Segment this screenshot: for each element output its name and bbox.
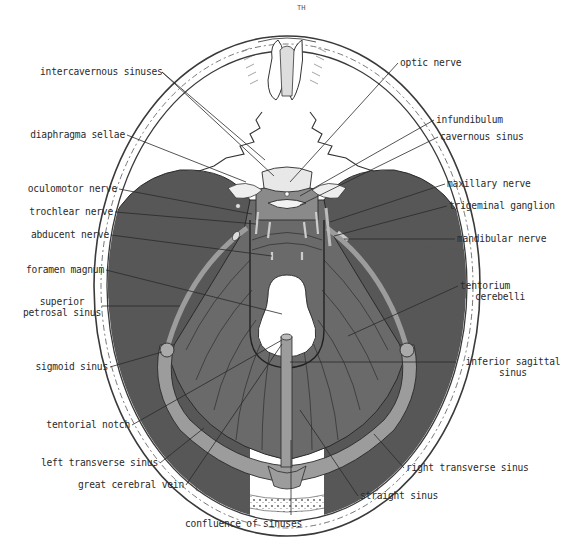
label-infundibulum: infundibulum	[436, 114, 503, 125]
label-maxillary-nerve: maxillary nerve	[447, 178, 531, 189]
label-diaphragma-sellae: diaphragma sellae	[30, 129, 125, 140]
label-sigmoid-sinus: sigmoid sinus	[20, 361, 108, 372]
label-straight-sinus: straight sinus	[360, 490, 438, 501]
label-tentorium-cerebelli: tentorium cerebelli	[460, 280, 540, 302]
label-great-cerebral-vein: great cerebral vein	[60, 479, 184, 490]
label-foramen-magnum: foramen magnum	[20, 264, 104, 275]
label-confluence-of-sinuses: confluence of sinuses	[185, 518, 302, 529]
label-intercavernous-sinuses: intercavernous sinuses	[40, 66, 160, 77]
svg-text:TH: TH	[297, 4, 305, 12]
label-tentorial-notch: tentorial notch	[30, 419, 130, 430]
label-trigeminal-ganglion: trigeminal ganglion	[449, 200, 555, 211]
label-oculomotor-nerve: oculomotor nerve	[25, 183, 117, 194]
label-left-transverse-sinus: left transverse sinus	[30, 457, 158, 468]
cranial-fossa-diagram: TH	[0, 0, 573, 552]
label-right-transverse-sinus: right transverse sinus	[406, 462, 529, 473]
label-cavernous-sinus: cavernous sinus	[440, 131, 524, 142]
label-inferior-sagittal-sinus: inferior sagittal sinus	[458, 356, 568, 378]
label-superior-petrosal-sinus: superior petrosal sinus	[22, 296, 102, 318]
label-optic-nerve: optic nerve	[400, 57, 461, 68]
label-trochlear-nerve: trochlear nerve	[25, 206, 113, 217]
label-abducent-nerve: abducent nerve	[25, 229, 109, 240]
label-mandibular-nerve: mandibular nerve	[457, 233, 546, 244]
